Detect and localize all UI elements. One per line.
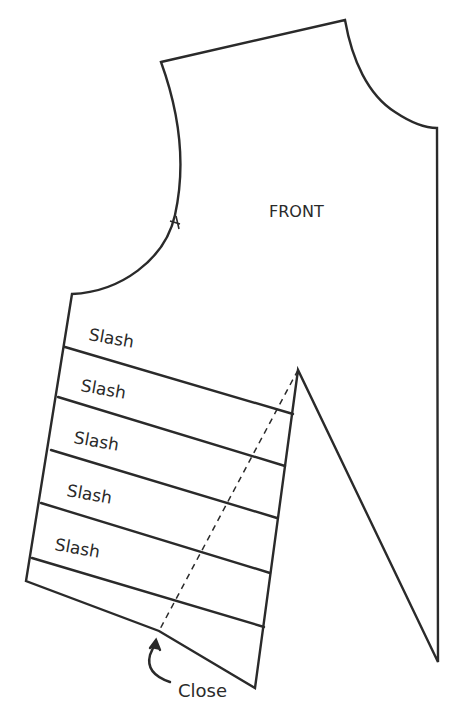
slash-label-5: Slash	[53, 534, 101, 562]
piece-label-front: FRONT	[269, 202, 324, 221]
slash-label-2: Slash	[79, 375, 127, 403]
slash-label-4: Slash	[65, 480, 113, 508]
close-fold-line	[159, 370, 298, 631]
slash-label-1: Slash	[87, 324, 135, 352]
pattern-diagram: FRONT Slash Slash Slash Slash Slash Clos…	[0, 0, 457, 707]
slash-label-3: Slash	[72, 427, 120, 455]
slash-line-5	[32, 558, 264, 627]
close-label: Close	[178, 680, 227, 701]
